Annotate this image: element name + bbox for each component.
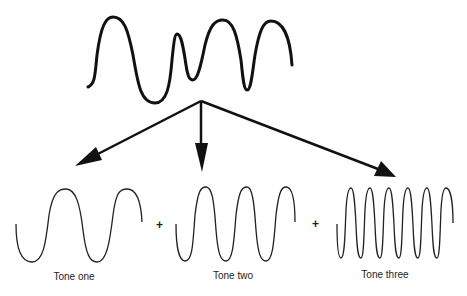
arrow-left: [75, 101, 201, 166]
plus-sign-1: +: [156, 218, 163, 232]
tone-two-wave: [176, 187, 295, 261]
tone-one-wave: [16, 189, 142, 262]
tone-one-label: Tone one: [48, 271, 100, 282]
tone-three-label: Tone three: [353, 269, 417, 280]
complex-wave: [88, 17, 292, 103]
diagram-canvas: [0, 0, 467, 296]
tone-three-wave: [337, 188, 453, 258]
tone-two-label: Tone two: [206, 270, 260, 281]
arrow-right: [201, 101, 396, 177]
plus-sign-2: +: [312, 217, 319, 231]
arrow-center: [195, 101, 208, 172]
